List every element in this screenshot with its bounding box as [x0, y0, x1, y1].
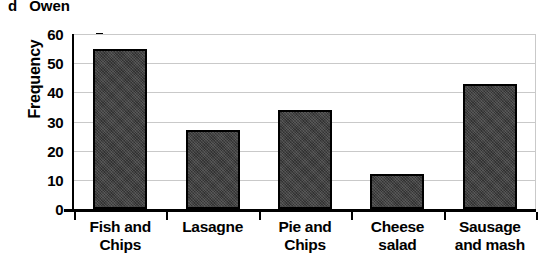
x-tick-label-line1: Sausage	[459, 218, 521, 235]
x-tick-label: Cheesesalad	[351, 218, 443, 254]
y-tick-label: 10	[30, 172, 63, 187]
bar-slot	[444, 34, 536, 209]
x-tick-label-line2: Chips	[74, 236, 166, 254]
y-tick-label: 20	[30, 143, 63, 158]
y-tick-label: 50	[30, 56, 63, 71]
x-axis-tick-labels: Fish andChipsLasagne Pie andChipsCheeses…	[74, 218, 536, 254]
bar	[93, 49, 147, 209]
x-tick-mark	[536, 212, 538, 220]
bar-chart: Frequency 0102030405060 Fish andChipsLas…	[0, 22, 544, 259]
x-tick-label-line1: Pie and	[279, 218, 332, 235]
x-tick-label-line2	[166, 236, 258, 254]
bar	[186, 130, 240, 209]
chart-figure: d Owen Frequency 0102030405060 Fish andC…	[0, 0, 544, 259]
plot-area	[74, 34, 536, 209]
bar-series	[74, 34, 536, 209]
question-letter: d	[8, 0, 17, 14]
y-tick-label: 40	[30, 85, 63, 100]
x-tick-label-line1: Lasagne	[182, 218, 243, 235]
y-tick-label: 30	[30, 114, 63, 129]
bar-slot	[74, 34, 166, 209]
x-tick-label-line2: salad	[351, 236, 443, 254]
x-tick-label: Sausageand mash	[444, 218, 536, 254]
y-axis-tick-labels: 0102030405060	[30, 22, 63, 222]
x-tick-label-line2: Chips	[259, 236, 351, 254]
bar	[278, 110, 332, 209]
bar-slot	[259, 34, 351, 209]
bar	[463, 84, 517, 209]
bar	[370, 174, 424, 209]
y-tick-label: 60	[30, 27, 63, 42]
bar-slot	[166, 34, 258, 209]
bar-slot	[351, 34, 443, 209]
x-tick-label: Fish andChips	[74, 218, 166, 254]
x-tick-label: Pie andChips	[259, 218, 351, 254]
x-tick-label-line1: Cheese	[371, 218, 424, 235]
y-tick-label: 0	[30, 202, 63, 217]
x-tick-label-line1: Fish and	[90, 218, 151, 235]
x-tick-label-line2: and mash	[444, 236, 536, 254]
x-tick-label: Lasagne	[166, 218, 258, 254]
